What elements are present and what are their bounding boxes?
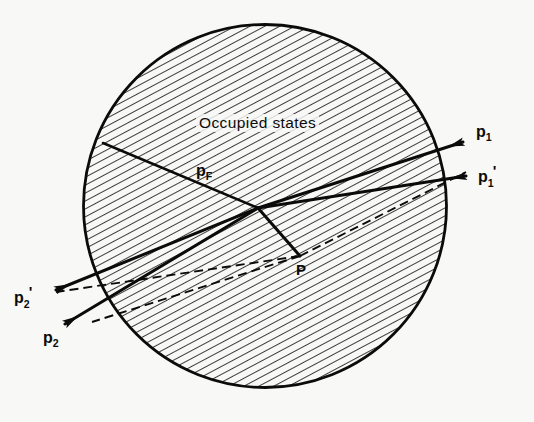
- p1-label: p1: [476, 124, 492, 143]
- p2-base: p: [43, 329, 53, 346]
- p2-label: p2: [43, 330, 59, 349]
- p1-prime-base: p: [478, 168, 488, 185]
- p1-prime-mark: ': [493, 162, 497, 179]
- p1-prime-label: p1': [478, 163, 497, 188]
- p2-prime-label: p2': [14, 284, 33, 309]
- p2-subscript: 2: [53, 337, 59, 349]
- diagram-canvas: [0, 0, 534, 422]
- pf-base: p: [196, 162, 206, 179]
- fermi-sphere-figure: Occupied states pF P p1 p1' p2' p2: [0, 0, 534, 422]
- p2-prime-mark: ': [29, 283, 33, 300]
- fermi-momentum-label: pF: [196, 163, 212, 182]
- occupied-states-label: Occupied states: [196, 114, 319, 132]
- p1-subscript: 1: [486, 131, 492, 143]
- pf-subscript: F: [206, 170, 212, 182]
- p2-prime-base: p: [14, 289, 24, 306]
- p1-base: p: [476, 123, 486, 140]
- point-p-label: P: [296, 262, 306, 277]
